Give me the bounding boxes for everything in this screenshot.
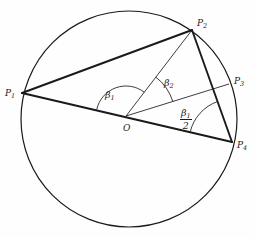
angle-arc-beta1 [97, 86, 145, 110]
angle-label-beta1-half: β1 2 [180, 108, 192, 130]
angle-arc-beta1-half [190, 102, 217, 132]
point-label-p1: P1 [5, 89, 15, 98]
fraction-denominator: 2 [180, 120, 192, 131]
segment-p1-p4 [22, 93, 232, 142]
circumcircle [21, 11, 237, 227]
point-label-p4: P4 [237, 141, 247, 150]
point-label-o: O [123, 124, 130, 133]
point-label-p2: P2 [197, 19, 207, 28]
geometry-canvas [0, 0, 255, 237]
segment-o-p3 [126, 84, 229, 116]
angle-label-beta1: β1 [105, 90, 115, 100]
angle-label-beta2: β2 [164, 78, 174, 88]
point-label-p3: P3 [234, 77, 244, 86]
geometry-figure: P1 P2 P3 P4 O β1 β2 β1 2 [0, 0, 255, 237]
segment-p2-p4 [192, 30, 232, 142]
fraction-numerator: β1 [180, 108, 192, 119]
